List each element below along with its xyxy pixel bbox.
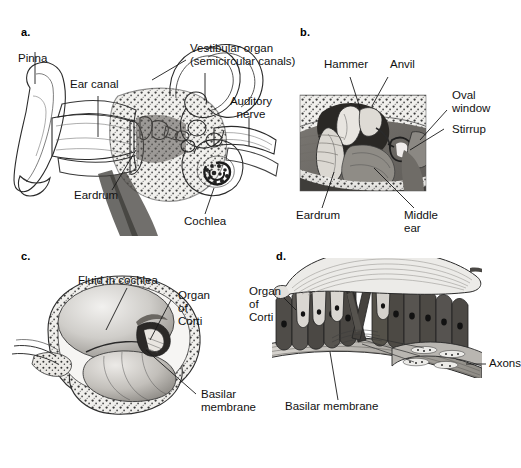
label-fluid-in-cochlea: Fluid in cochlea — [78, 274, 158, 287]
label-eardrum: Eardrum — [74, 189, 118, 202]
panel-a-artwork — [14, 45, 278, 236]
label-eardrum-b: Eardrum — [296, 209, 340, 222]
panel-d-artwork — [268, 250, 494, 400]
panel-b-artwork — [296, 77, 447, 208]
label-hammer: Hammer — [324, 58, 368, 71]
leader-basilar-membrane-d — [330, 352, 338, 400]
label-auditory-nerve: Auditory nerve — [228, 95, 274, 121]
label-cochlea: Cochlea — [184, 215, 226, 228]
label-organ-of-corti-d: Organ of Corti — [249, 285, 281, 324]
panel-c-artwork — [12, 276, 200, 414]
panel-letter-b: b. — [300, 26, 310, 38]
panel-letter-a: a. — [21, 26, 31, 38]
label-oval-window: Oval window — [452, 89, 490, 115]
label-stirrup: Stirrup — [452, 123, 486, 136]
label-basilar-membrane-c: Basilar membrane — [201, 388, 256, 414]
label-ear-canal: Ear canal — [70, 78, 119, 91]
label-basilar-membrane-d: Basilar membrane — [285, 400, 378, 413]
label-anvil: Anvil — [390, 58, 415, 71]
label-organ-of-corti-c: Organ of Corti — [178, 289, 210, 328]
label-axons: Axons — [489, 357, 521, 370]
label-pinna: Pinna — [18, 52, 47, 65]
leader-vestibular-organ-2 — [152, 60, 186, 80]
label-vestibular-organ: Vestibular organ (semicircular canals) — [190, 42, 295, 68]
panel-letter-c: c. — [21, 250, 31, 262]
panel-letter-d: d. — [276, 250, 286, 262]
leader-cochlea — [205, 188, 214, 214]
label-middle-ear: Middle ear — [404, 209, 438, 235]
